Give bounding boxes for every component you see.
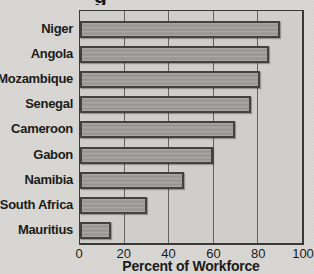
- bar-row: [80, 168, 302, 193]
- cropped-title-fragment: g: [94, 0, 128, 5]
- category-label: Namibia: [0, 167, 76, 192]
- bar-row: [80, 117, 302, 142]
- bar-row: [80, 143, 302, 168]
- category-label: Mozambique: [0, 66, 76, 91]
- bar-row: [80, 67, 302, 92]
- bar-senegal: [80, 96, 251, 113]
- bar-row: [80, 193, 302, 218]
- bar-row: [80, 42, 302, 67]
- y-axis-category-labels: NigerAngolaMozambiqueSenegalCameroonGabo…: [0, 10, 76, 242]
- bar-row: [80, 92, 302, 117]
- category-label: Gabon: [0, 142, 76, 167]
- bar-namibia: [80, 172, 184, 189]
- bar-niger: [80, 21, 280, 38]
- category-label: South Africa: [0, 192, 76, 217]
- plot-area: [79, 10, 304, 245]
- bar-chart-figure: g NigerAngolaMozambiqueSenegalCameroonGa…: [0, 0, 314, 274]
- bar-row: [80, 17, 302, 42]
- bar-cameroon: [80, 121, 235, 138]
- bar-south-africa: [80, 197, 147, 214]
- category-label: Angola: [0, 41, 76, 66]
- bar-row: [80, 218, 302, 243]
- cropped-title-glyph: g: [94, 0, 128, 5]
- bar-series: [80, 11, 302, 243]
- category-label: Mauritius: [0, 217, 76, 242]
- bar-mozambique: [80, 71, 260, 88]
- bar-mauritius: [80, 222, 111, 239]
- bar-angola: [80, 46, 269, 63]
- x-axis-title: Percent of Workforce: [79, 258, 303, 274]
- category-label: Cameroon: [0, 116, 76, 141]
- category-label: Senegal: [0, 91, 76, 116]
- bar-gabon: [80, 147, 213, 164]
- category-label: Niger: [0, 16, 76, 41]
